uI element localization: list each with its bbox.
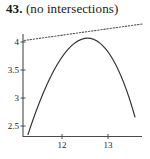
y-tick-label-3: 3 [0, 93, 19, 103]
plot-area [0, 0, 150, 159]
figure-43-no-intersections: 43. (no intersections) 4 3.5 3 2.5 12 13 [0, 0, 150, 159]
y-tick-label-2-5: 2.5 [0, 121, 19, 131]
dotted-line-series [24, 24, 142, 41]
x-tick-label-12: 12 [58, 140, 67, 150]
parabola-curve-series [28, 38, 135, 134]
y-tick-label-4: 4 [0, 37, 19, 47]
x-tick-label-13: 13 [104, 140, 113, 150]
y-tick-label-3-5: 3.5 [0, 65, 19, 75]
